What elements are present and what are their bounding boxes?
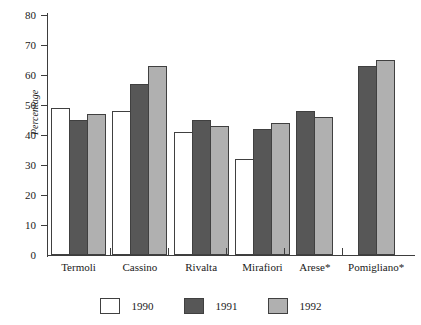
bar-chart-figure: Percentage 80 70 60 50 40 30 20 10 0 Ter… [0,0,421,325]
chart-legend: 1990 1991 1992 [0,298,421,314]
bar-Termoli-1991[interactable] [69,120,88,255]
legend-item-1991[interactable]: 1991 [184,298,238,314]
y-tick-label-0: 0 [0,250,36,261]
legend-item-1990[interactable]: 1990 [100,298,154,314]
y-tick-label-10: 10 [0,220,36,231]
bar-Cassino-1992[interactable] [148,66,167,255]
bar-groups [47,15,415,255]
legend-label-1992: 1992 [300,301,322,312]
cropped-title-remnant [6,0,416,2]
legend-swatch-1992-icon [268,298,288,314]
x-label-Pomigliano: Pomigliano* [331,261,421,274]
legend-swatch-1990-icon [100,298,120,314]
bar-group [174,15,235,255]
bar-Rivalta-1992[interactable] [210,126,229,255]
bar-group [358,15,419,255]
y-tick-label-70: 70 [0,40,36,51]
x-axis-line [47,255,415,256]
x-tick-5 [342,248,343,256]
bar-Mirafiori-1992[interactable] [271,123,290,255]
bar-Pomigliano-1991[interactable] [358,66,377,255]
y-tick-label-80: 80 [0,10,36,21]
bar-Arese-1991[interactable] [296,111,315,255]
y-tick-label-60: 60 [0,70,36,81]
y-tick-label-40: 40 [0,130,36,141]
bar-Mirafiori-1990[interactable] [235,159,254,255]
bar-Rivalta-1991[interactable] [192,120,211,255]
y-tick-label-50: 50 [0,100,36,111]
bar-group [112,15,173,255]
legend-item-1992[interactable]: 1992 [268,298,322,314]
bar-Mirafiori-1991[interactable] [253,129,272,255]
bar-Termoli-1990[interactable] [51,108,70,255]
legend-label-1990: 1990 [132,301,154,312]
y-tick-label-30: 30 [0,160,36,171]
bar-group [235,15,296,255]
x-tick-2 [168,248,169,256]
bar-Cassino-1991[interactable] [130,84,149,255]
legend-label-1991: 1991 [216,301,238,312]
bar-Rivalta-1990[interactable] [174,132,193,255]
x-tick-4 [284,248,285,256]
y-tick-label-20: 20 [0,190,36,201]
bar-Cassino-1990[interactable] [112,111,131,255]
x-tick-1 [110,248,111,256]
x-tick-3 [226,248,227,256]
bar-group [51,15,112,255]
bar-Arese-1992[interactable] [314,117,333,255]
bar-Termoli-1992[interactable] [87,114,106,255]
bar-group [296,15,357,255]
legend-swatch-1991-icon [184,298,204,314]
bar-Pomigliano-1992[interactable] [376,60,395,255]
